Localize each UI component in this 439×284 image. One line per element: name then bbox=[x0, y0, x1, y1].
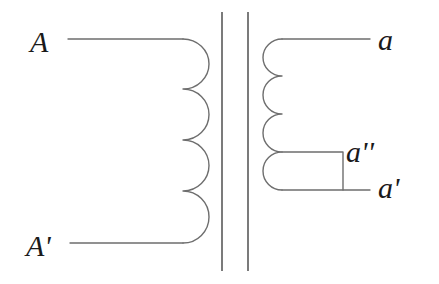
transformer-core bbox=[222, 12, 248, 271]
primary-coil bbox=[183, 39, 209, 243]
primary-winding bbox=[68, 39, 209, 243]
terminal-label-A-prime: A' bbox=[24, 229, 51, 262]
secondary-tap-lead bbox=[282, 152, 343, 190]
transformer-diagram: A A' a a'' a' bbox=[0, 0, 439, 284]
terminal-label-a-prime: a' bbox=[378, 171, 400, 204]
secondary-coil bbox=[263, 39, 282, 190]
terminal-label-A: A bbox=[28, 25, 49, 58]
terminal-label-a: a bbox=[378, 23, 393, 56]
terminal-label-a-double-prime: a'' bbox=[346, 135, 374, 168]
